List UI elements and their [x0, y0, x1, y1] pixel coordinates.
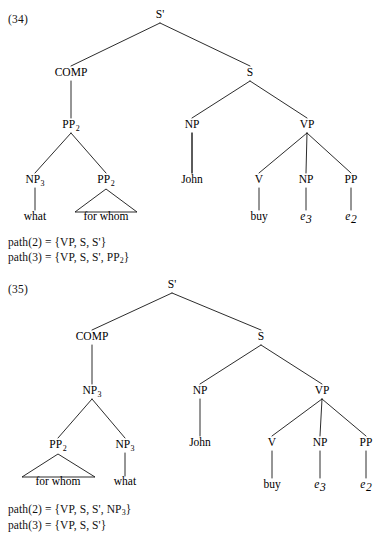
node-vp: VP: [315, 384, 330, 396]
tree-branch: [172, 293, 261, 330]
tree-branch: [192, 81, 250, 118]
leaf-leaf-buy: buy: [263, 478, 281, 491]
example-block-35: (35) S'COMPSNP3NPVPPP2NP3VNPPPfor whomwh…: [0, 271, 391, 543]
leaf-leaf-john: John: [181, 173, 203, 185]
tree-branch: [322, 399, 366, 436]
node-v: V: [255, 173, 264, 185]
path-expression-3: path(3) = {VP, S, S', PP2}: [8, 251, 129, 265]
triangle-for-whom: [22, 454, 95, 477]
tree-branch: [92, 293, 172, 330]
leaf-leaf-what: what: [114, 475, 137, 487]
node-np-obj: NP: [299, 173, 314, 185]
leaf-leaf-john: John: [189, 436, 211, 448]
path-expression-3: path(3) = {VP, S, S'}: [8, 519, 106, 531]
node-np3: NP3: [25, 173, 44, 188]
node-np3-low: NP3: [115, 438, 134, 453]
tree-branch: [320, 399, 322, 436]
tree-branch: [259, 133, 307, 173]
node-np-subj: NP: [185, 118, 200, 130]
figure-page: (34) S'COMPSPP2NPVPNP3PP2VNPPPwhatfor wh…: [0, 0, 391, 543]
leaf-leaf-e3: e3: [300, 210, 312, 225]
tree-branch: [71, 23, 160, 66]
leaf-leaf-e2: e2: [345, 210, 357, 225]
tree-branch: [71, 133, 106, 173]
tree-branch: [306, 133, 307, 173]
node-pp2-top: PP2: [62, 118, 79, 133]
node-s: S: [258, 330, 264, 342]
node-pp-obj: PP: [360, 436, 373, 448]
node-vp: VP: [300, 118, 315, 130]
node-v: V: [268, 436, 277, 448]
triangle-for-whom: [75, 189, 137, 212]
node-np-subj: NP: [193, 384, 208, 396]
node-np-obj: NP: [313, 436, 328, 448]
node-pp2-low: PP2: [97, 173, 114, 188]
leaf-leaf-e2: e2: [360, 478, 372, 493]
leaf-leaf-e3: e3: [314, 478, 326, 493]
node-sbar: S': [168, 278, 176, 290]
tree-branch: [200, 345, 261, 384]
tree-branch: [250, 81, 307, 118]
node-pp-obj: PP: [345, 173, 358, 185]
node-pp2-low: PP2: [49, 438, 66, 453]
tree-branch: [307, 133, 351, 173]
leaf-leaf-forwhom: for whom: [35, 475, 80, 487]
node-np3-top: NP3: [82, 384, 101, 399]
node-s: S: [247, 66, 253, 78]
leaf-leaf-what: what: [24, 210, 47, 222]
tree-branch: [35, 133, 71, 173]
node-comp: COMP: [55, 66, 88, 78]
tree-branch: [58, 399, 92, 438]
leaf-leaf-buy: buy: [250, 210, 268, 223]
example-block-34: (34) S'COMPSPP2NPVPNP3PP2VNPPPwhatfor wh…: [0, 0, 391, 271]
syntax-tree-34: S'COMPSPP2NPVPNP3PP2VNPPPwhatfor whomJoh…: [0, 0, 391, 271]
node-comp: COMP: [76, 330, 109, 342]
path-expression-2: path(2) = {VP, S, S'}: [8, 236, 106, 248]
node-sbar: S': [156, 8, 164, 20]
path-expression-2: path(2) = {VP, S, S', NP3}: [8, 503, 131, 517]
tree-branch: [92, 399, 125, 438]
tree-branch: [160, 23, 250, 66]
tree-branch: [261, 345, 322, 384]
tree-branch: [272, 399, 322, 436]
leaf-leaf-forwhom: for whom: [83, 210, 128, 222]
